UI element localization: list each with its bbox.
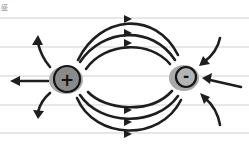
field-line	[38, 93, 50, 112]
arrow-left-icon	[202, 73, 212, 84]
field-line	[210, 80, 241, 87]
electric-field-diagram: 盛 +	[0, 0, 249, 161]
field-line	[205, 98, 220, 125]
field-lines-bottom	[77, 91, 181, 138]
arrow-right-icon	[124, 39, 132, 47]
field-lines-top	[78, 15, 178, 69]
field-lines-inward	[199, 38, 241, 125]
positive-charge: +	[49, 66, 83, 94]
field-line	[86, 47, 170, 69]
plus-icon: +	[60, 70, 74, 90]
negative-charge: -	[169, 65, 199, 91]
arrow-down-icon	[33, 110, 44, 119]
corner-mark: 盛	[1, 3, 8, 12]
arrow-left-icon	[10, 76, 20, 86]
minus-icon: -	[183, 67, 189, 85]
arrow-right-icon	[124, 15, 132, 23]
field-line	[204, 38, 220, 62]
field-line	[77, 98, 181, 131]
arrow-up-icon	[32, 35, 43, 45]
